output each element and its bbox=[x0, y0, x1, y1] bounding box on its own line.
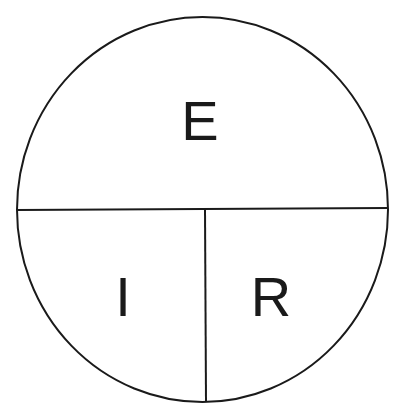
label-voltage-e: E bbox=[181, 89, 218, 152]
ohms-law-diagram: E I R bbox=[0, 0, 399, 415]
vertical-divider bbox=[205, 209, 206, 402]
label-current-i: I bbox=[115, 265, 131, 328]
horizontal-divider bbox=[17, 208, 388, 210]
label-resistance-r: R bbox=[251, 265, 291, 328]
